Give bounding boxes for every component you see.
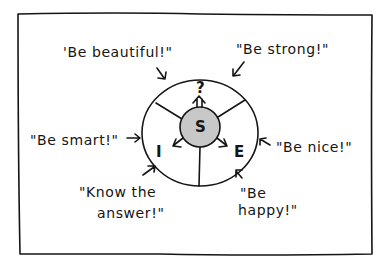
segment-label-left: I xyxy=(156,143,162,161)
callout-know-line2: answer!" xyxy=(97,205,164,221)
callout-happy-line2: happy!" xyxy=(238,202,298,218)
diagram-canvas: ? S I E 'Be beautiful!" "Be strong!" "Be… xyxy=(0,0,392,268)
divider-bottom xyxy=(199,147,200,186)
callout-smart: "Be smart!" xyxy=(30,132,119,148)
arrow-down-right-icon xyxy=(217,138,227,147)
segment-label-top: ? xyxy=(196,79,205,97)
pointer-smart-icon xyxy=(127,134,140,142)
divider-right xyxy=(218,100,245,117)
divider-left xyxy=(156,103,182,119)
callout-nice: "Be nice!" xyxy=(276,139,352,155)
pointer-know-icon xyxy=(143,166,155,175)
callout-strong: "Be strong!" xyxy=(236,41,329,57)
callout-happy-line1: "Be xyxy=(240,185,266,201)
segment-label-right: E xyxy=(234,143,244,161)
center-label: S xyxy=(195,118,206,136)
pointer-beautiful-icon xyxy=(157,68,166,79)
pointer-nice-icon xyxy=(260,138,270,145)
arrow-down-left-icon xyxy=(173,138,183,147)
arrow-up-icon xyxy=(193,96,205,107)
callout-know-line1: "Know the xyxy=(79,184,156,200)
pointer-strong-icon xyxy=(233,62,244,76)
callout-beautiful: 'Be beautiful!" xyxy=(63,44,173,60)
